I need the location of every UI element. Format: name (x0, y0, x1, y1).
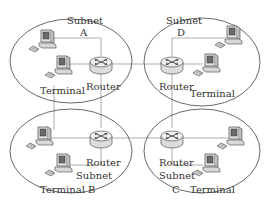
computer-terminal-icon (193, 54, 220, 76)
subnet-b-label: Subnet (76, 170, 112, 181)
subnet-d-label: Subnet (166, 15, 202, 26)
router-icon (90, 57, 112, 74)
network-diagram: Subnet A Terminal Router Subnet D Router… (0, 0, 272, 211)
subnet-c-router-label: Router (159, 157, 194, 168)
subnet-d-letter: D (177, 27, 185, 38)
subnet-b-terminal-label: Terminal (40, 184, 85, 195)
subnet-c-letter: C (172, 184, 180, 195)
subnet-d: Subnet D Router Terminal (159, 15, 242, 99)
subnet-b-letter: B (88, 184, 95, 195)
router-icon (161, 57, 183, 74)
subnet-c-terminal-label: Terminal (190, 184, 235, 195)
router-icon (90, 131, 112, 148)
subnet-b-boundary (10, 109, 132, 193)
subnet-d-terminal-label: Terminal (190, 88, 235, 99)
subnet-d-router-label: Router (159, 81, 194, 92)
router-icon (161, 131, 183, 148)
computer-terminal-icon (45, 154, 72, 176)
computer-terminal-icon (26, 127, 53, 149)
computer-terminal-icon (29, 30, 56, 52)
link-a-terminal1-router (54, 38, 101, 56)
subnet-c: Router Subnet C Terminal (159, 127, 244, 195)
computer-terminal-icon (45, 56, 72, 78)
subnet-a-terminal-label: Terminal (40, 85, 85, 96)
subnet-b-router-label: Router (86, 157, 121, 168)
link-d-terminal1-router (172, 38, 226, 56)
computer-terminal-icon (215, 26, 242, 48)
links (50, 38, 228, 165)
subnet-a-label: Subnet (67, 15, 103, 26)
subnet-a-letter: A (79, 27, 88, 38)
subnet-c-label: Subnet (159, 170, 195, 181)
subnet-a-router-label: Router (86, 81, 121, 92)
